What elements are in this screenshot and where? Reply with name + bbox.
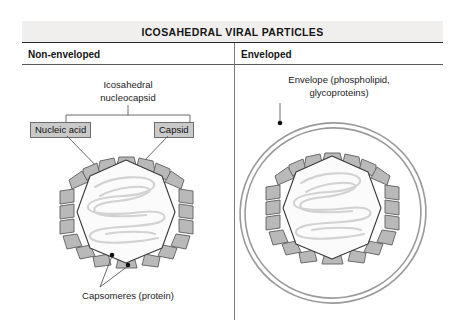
panel-enveloped: Envelope (phospholipid, glycoproteins) [235,65,443,321]
page-title: ICOSAHEDRAL VIRAL PARTICLES [141,26,323,38]
non-enveloped-particle-diagram [22,65,234,321]
column-header-row: Non-enveloped Enveloped [22,43,443,65]
nucleocapsid-bracket [66,105,190,122]
panel-non-enveloped: Icosahedral nucleocapsid Nucleic acid Ca… [22,65,234,321]
envelope-leader [278,103,283,125]
icosahedral-viral-particles-figure: ICOSAHEDRAL VIRAL PARTICLES Non-envelope… [22,21,443,321]
column-header-enveloped: Enveloped [241,43,292,65]
enveloped-particle-diagram [235,65,443,321]
column-header-non-enveloped: Non-enveloped [28,43,100,65]
figure-title-bar: ICOSAHEDRAL VIRAL PARTICLES [22,21,443,43]
